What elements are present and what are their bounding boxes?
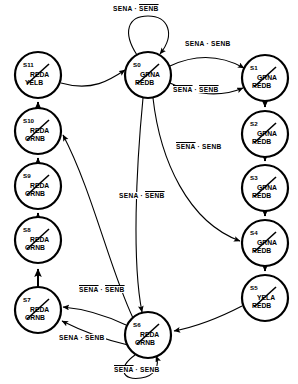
output-a: REDA: [30, 182, 49, 190]
condition-term-a: SENA: [113, 5, 133, 12]
state-diagram-canvas: S0GRNAREDBS1GRNAREDBS2GRNAREDBS3GRNAREDB…: [0, 0, 298, 384]
output-b: REDB: [252, 247, 277, 255]
condition-term-a: SENA: [79, 286, 99, 293]
condition-term-b: SENB: [139, 5, 159, 12]
node-outputs-s10: REDAGRNB: [30, 127, 49, 143]
output-b: REDB: [252, 192, 277, 200]
edge-s0-s6: [136, 98, 143, 312]
output-a: GRNA: [257, 74, 277, 82]
node-outputs-s0: GRNAREDB: [140, 71, 160, 87]
condition-term-a: SENA: [114, 366, 134, 373]
node-outputs-s1: GRNAREDB: [257, 74, 277, 90]
condition-term-b: SENB: [145, 192, 165, 199]
condition-term-a: SENA: [173, 86, 193, 93]
node-id-s6: S6: [133, 321, 141, 328]
edge-s5-s6: [174, 306, 242, 331]
edge-s6-s7-lower: [62, 321, 128, 345]
output-b: GRNB: [25, 190, 49, 198]
condition-term-a: SENA: [119, 192, 139, 199]
transition-label-s6-s7-b: SENA·SENB: [58, 334, 106, 341]
output-a: GRNA: [257, 184, 277, 192]
output-b: GRNB: [135, 339, 159, 347]
transition-label-s6-self: SENA·SENB: [113, 366, 161, 373]
output-b: YELB: [25, 79, 49, 87]
edge-s6-s7-upper: [63, 307, 126, 325]
node-outputs-s7: REDAGRNB: [30, 306, 49, 322]
condition-term-b: SENB: [105, 286, 125, 293]
node-outputs-s11: REDAYELB: [30, 71, 49, 87]
output-b: REDB: [252, 138, 277, 146]
condition-term-a: SENA: [176, 143, 196, 150]
node-id-s10: S10: [23, 117, 34, 124]
output-a: REDA: [140, 331, 159, 339]
output-a: GRNA: [257, 239, 277, 247]
condition-term-b: SENB: [199, 86, 219, 93]
edge-s0-s4: [153, 98, 240, 241]
condition-term-b: SENB: [202, 143, 222, 150]
node-id-s5: S5: [250, 284, 258, 291]
node-outputs-s3: GRNAREDB: [257, 184, 277, 200]
node-outputs-s5: YELAREDB: [257, 294, 275, 310]
output-b: REDB: [252, 82, 277, 90]
node-id-s1: S1: [250, 64, 258, 71]
edge-s0-s1-upper: [170, 58, 244, 68]
transition-label-s0-s6: SENA·SENB: [118, 192, 166, 199]
output-b: REDB: [135, 79, 160, 87]
edge-s0-self: [129, 16, 169, 55]
edge-s11-s0: [61, 70, 125, 86]
output-a: YELA: [257, 294, 275, 302]
transition-label-s6-s7-a: SENA·SENB: [78, 286, 126, 293]
condition-term-b: SENB: [85, 334, 105, 341]
output-b: GRNB: [25, 244, 49, 252]
node-id-s8: S8: [23, 226, 31, 233]
output-a: GRNA: [140, 71, 160, 79]
transition-label-s0-s1-a: SENA·SENB: [184, 40, 232, 47]
node-id-s3: S3: [250, 174, 258, 181]
output-a: GRNA: [257, 130, 277, 138]
output-b: REDB: [252, 302, 275, 310]
output-a: REDA: [30, 306, 49, 314]
output-a: REDA: [30, 71, 49, 79]
node-outputs-s9: REDAGRNB: [30, 182, 49, 198]
transition-label-s0-s4: SENA·SENB: [175, 143, 223, 150]
condition-term-a: SENA: [59, 334, 79, 341]
node-id-s0: S0: [133, 61, 141, 68]
condition-term-b: SENB: [140, 366, 160, 373]
node-outputs-s8: REDAGRNB: [30, 236, 49, 252]
node-id-s11: S11: [23, 61, 34, 68]
transition-label-s0-s1-b: SENA·SENB: [172, 86, 220, 93]
condition-term-b: SENB: [211, 40, 231, 47]
transition-label-s0-self: SENA·SENB: [112, 5, 160, 12]
condition-term-a: SENA: [185, 40, 205, 47]
node-id-s9: S9: [23, 172, 31, 179]
node-outputs-s4: GRNAREDB: [257, 239, 277, 255]
node-outputs-s6: REDAGRNB: [140, 331, 159, 347]
node-id-s7: S7: [23, 296, 31, 303]
output-a: REDA: [30, 127, 49, 135]
node-id-s4: S4: [250, 229, 258, 236]
output-b: GRNB: [25, 314, 49, 322]
node-outputs-s2: GRNAREDB: [257, 130, 277, 146]
output-a: REDA: [30, 236, 49, 244]
output-b: GRNB: [25, 135, 49, 143]
node-id-s2: S2: [250, 120, 258, 127]
